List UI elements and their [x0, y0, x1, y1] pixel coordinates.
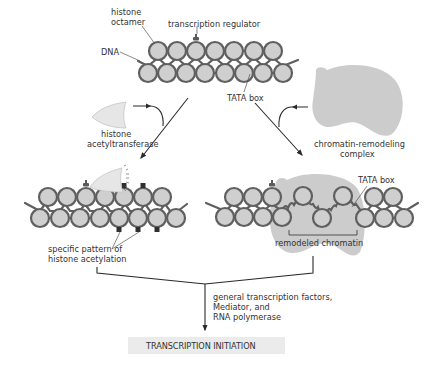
arrow-hat-joins [133, 106, 163, 126]
bound-acetyltransferase-icon [90, 168, 123, 192]
remodeled-chromatin-label: remodeled chromatin [275, 238, 363, 248]
histone-acetyltransferase: histone acetyltransferase [87, 102, 159, 149]
histone-octamer-label-2: octamer [111, 17, 146, 27]
arrow-to-remodeling [255, 103, 302, 155]
tata-box-label-right: TATA box [357, 175, 395, 185]
remodeling-complex-icon [312, 65, 402, 136]
remodeled-chromatin: TATA box remodeled chromatin [206, 174, 418, 256]
top-chromatin: histone octamer transcription regulator … [101, 7, 298, 103]
remodeling-label-2: complex [340, 149, 375, 159]
nucleosomes-lower-row [139, 64, 292, 82]
histone-octamer-label-1: histone [111, 7, 141, 17]
acetyltransferase-icon [92, 102, 126, 128]
transcription-regulator-icon [83, 180, 89, 187]
chromatin-transcription-diagram: histone octamer transcription regulator … [0, 0, 442, 371]
transcription-initiation-label: TRANSCRIPTION INITIATION [145, 341, 256, 351]
tata-box-label-top: TATA box [226, 93, 264, 103]
dna-label: DNA [101, 47, 119, 57]
hat-label-1: histone [101, 129, 131, 139]
remodeling-label-1: chromatin-remodeling [314, 139, 405, 149]
factors-label-2: Mediator, and [213, 302, 270, 312]
transcription-regulator-icon [193, 34, 199, 41]
chromatin-remodeling-complex: chromatin-remodeling complex [312, 65, 405, 159]
transcription-regulator-icon [269, 180, 275, 187]
acetylated-lower-row [31, 209, 185, 227]
arrow-remodeler-joins [279, 107, 308, 127]
nucleosomes-upper-row [149, 42, 282, 60]
factors-label-1: general transcription factors, [213, 292, 332, 302]
merge-arrows: general transcription factors, Mediator,… [97, 256, 332, 330]
transcription-initiation-box: TRANSCRIPTION INITIATION [128, 337, 285, 354]
hat-label-2: acetyltransferase [87, 139, 159, 149]
acetylated-chromatin: specific pattern of histone acetylation [25, 165, 187, 264]
transcription-regulator-label: transcription regulator [168, 19, 261, 29]
acetylation-label-1: specific pattern of [48, 244, 123, 254]
factors-label-3: RNA polymerase [213, 312, 281, 322]
acetylation-label-2: histone acetylation [48, 254, 126, 264]
